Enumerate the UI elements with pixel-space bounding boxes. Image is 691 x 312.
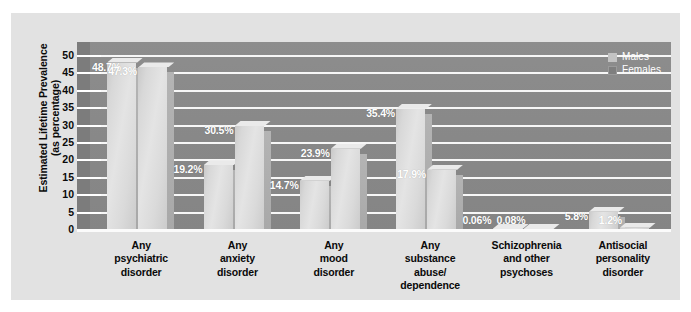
bar-top-face xyxy=(235,121,271,126)
category-label-line: mood xyxy=(280,252,388,265)
bar-value-females-2: 30.5% xyxy=(205,125,234,136)
y-tick-label-35: 35 xyxy=(52,102,74,113)
bar-top-face xyxy=(589,207,625,212)
category-label-line: substance xyxy=(376,252,484,265)
tickmark-40 xyxy=(77,90,101,92)
bar-males-3[interactable] xyxy=(300,181,329,232)
category-label-line: disorder xyxy=(87,266,195,279)
y-tick-label-30: 30 xyxy=(52,120,74,131)
category-label-line: disorder xyxy=(183,266,291,279)
category-label-5: Schizophreniaand otherpsychoses xyxy=(472,239,580,279)
category-label-line: Schizophrenia xyxy=(472,239,580,252)
legend-swatch-females-icon xyxy=(608,66,617,75)
category-label-line: anxiety xyxy=(183,252,291,265)
legend-label-males: Males xyxy=(622,52,649,62)
category-label-line: Any xyxy=(376,239,484,252)
category-label-3: Anymooddisorder xyxy=(280,239,388,279)
category-label-line: Antisocial xyxy=(569,239,677,252)
category-label-line: disorder xyxy=(569,266,677,279)
bar-value-males-5: 0.06% xyxy=(463,215,492,226)
bar-top-face xyxy=(331,144,367,149)
y-tick-label-20: 20 xyxy=(52,154,74,165)
bar-males-1[interactable] xyxy=(107,63,136,232)
tickmark-5 xyxy=(77,212,101,214)
category-label-line: Any xyxy=(87,239,195,252)
bar-value-females-1: 47.3% xyxy=(108,66,137,77)
bar-value-females-3: 23.9% xyxy=(301,148,330,159)
tickmark-30 xyxy=(77,125,101,127)
plot-area: 48.7%47.3%19.2%30.5%14.7%23.9%35.4%17.9%… xyxy=(77,42,671,232)
y-tick-label-0: 0 xyxy=(52,224,74,235)
bar-females-3[interactable] xyxy=(331,149,360,232)
gridline-50 xyxy=(77,55,671,57)
tickmark-15 xyxy=(77,177,101,179)
category-label-1: Anypsychiatricdisorder xyxy=(87,239,195,279)
bar-value-females-4: 17.9% xyxy=(397,169,426,180)
legend: Males Females xyxy=(608,51,661,76)
bar-top-face xyxy=(427,165,463,170)
y-tick-label-10: 10 xyxy=(52,189,74,200)
y-axis-tick-labels: 50454035302520151050 xyxy=(52,41,74,241)
bar-top-face xyxy=(620,223,656,228)
tick-ribbon xyxy=(77,42,90,232)
bar-side-face xyxy=(360,154,367,232)
tickmark-25 xyxy=(77,142,101,144)
category-label-line: dependence xyxy=(376,279,484,292)
bar-females-4[interactable] xyxy=(427,170,456,232)
bar-value-males-2: 19.2% xyxy=(174,164,203,175)
bar-females-1[interactable] xyxy=(138,67,167,232)
tickmark-35 xyxy=(77,107,101,109)
bar-value-males-4: 35.4% xyxy=(366,108,395,119)
category-label-line: Any xyxy=(280,239,388,252)
chart-card: Estimated Lifetime Prevalence (as percen… xyxy=(11,13,680,300)
category-label-line: Any xyxy=(183,239,291,252)
legend-item-males[interactable]: Males xyxy=(608,51,661,63)
bar-females-2[interactable] xyxy=(235,126,264,232)
category-label-4: Anysubstanceabuse/dependence xyxy=(376,239,484,293)
bar-value-males-3: 14.7% xyxy=(270,180,299,191)
bar-males-2[interactable] xyxy=(204,165,233,232)
axis-baseline xyxy=(77,229,671,232)
legend-label-females: Females xyxy=(622,65,661,75)
category-label-line: disorder xyxy=(280,266,388,279)
y-tick-label-25: 25 xyxy=(52,137,74,148)
category-label-line: abuse/ xyxy=(376,266,484,279)
tickmark-45 xyxy=(77,72,101,74)
legend-swatch-males-icon xyxy=(608,53,617,62)
category-label-line: and other xyxy=(472,252,580,265)
category-label-6: Antisocialpersonalitydisorder xyxy=(569,239,677,279)
y-tick-label-15: 15 xyxy=(52,172,74,183)
category-label-line: psychoses xyxy=(472,266,580,279)
bar-top-face xyxy=(396,104,432,109)
y-tick-label-50: 50 xyxy=(52,50,74,61)
bar-value-females-6: 1.2% xyxy=(599,215,622,226)
x-axis-category-labels: AnypsychiatricdisorderAnyanxietydisorder… xyxy=(77,239,671,297)
category-label-line: personality xyxy=(569,252,677,265)
category-label-line: psychiatric xyxy=(87,252,195,265)
bar-top-face xyxy=(138,62,174,67)
category-label-2: Anyanxietydisorder xyxy=(183,239,291,279)
tickmark-10 xyxy=(77,194,101,196)
bar-value-males-6: 5.8% xyxy=(565,211,588,222)
bar-value-females-5: 0.08% xyxy=(497,215,526,226)
y-tick-label-45: 45 xyxy=(52,67,74,78)
tickmark-20 xyxy=(77,159,101,161)
bar-side-face xyxy=(167,72,174,232)
y-tick-label-40: 40 xyxy=(52,85,74,96)
y-tick-label-5: 5 xyxy=(52,207,74,218)
legend-item-females[interactable]: Females xyxy=(608,64,661,76)
tickmark-50 xyxy=(77,55,101,57)
